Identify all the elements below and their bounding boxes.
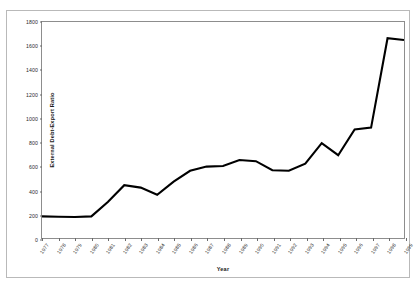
x-tick-mark-1994 (323, 238, 324, 241)
x-tick-label-1988: 1988 (221, 242, 232, 255)
x-tick-label-1997: 1997 (369, 242, 380, 255)
x-tick-label-1995: 1995 (336, 242, 347, 255)
x-tick-label-1998: 1998 (386, 242, 397, 255)
y-tick-label-200: 200 (29, 213, 38, 219)
x-tick-mark-1979 (75, 238, 76, 241)
x-tick-mark-1995 (340, 238, 341, 241)
x-tick-label-1984: 1984 (154, 242, 165, 255)
figure-top-caption (7, 1, 409, 7)
x-tick-mark-1998 (389, 238, 390, 241)
x-tick-mark-1993 (307, 238, 308, 241)
x-tick-label-1980: 1980 (88, 242, 99, 255)
x-tick-label-1993: 1993 (303, 242, 314, 255)
y-tick-label-0: 0 (35, 237, 38, 243)
y-tick-label-600: 600 (29, 164, 38, 170)
x-tick-mark-1988 (224, 238, 225, 241)
y-tick-label-400: 400 (29, 189, 38, 195)
x-tick-label-1994: 1994 (320, 242, 331, 255)
y-tick-label-1600: 1600 (26, 43, 38, 49)
x-tick-mark-1987 (207, 238, 208, 241)
x-tick-label-1987: 1987 (204, 242, 215, 255)
x-tick-mark-1990 (257, 238, 258, 241)
y-tick-label-800: 800 (29, 140, 38, 146)
x-tick-mark-1982 (125, 238, 126, 241)
x-tick-mark-1984 (158, 238, 159, 241)
x-tick-label-1990: 1990 (254, 242, 265, 255)
x-tick-mark-1999 (406, 238, 407, 241)
x-tick-label-1986: 1986 (187, 242, 198, 255)
figure-panel: External Debt-Export Ratio 0200400600800… (6, 10, 410, 278)
line-series-svg (42, 22, 404, 238)
x-tick-mark-1985 (174, 238, 175, 241)
x-tick-mark-1992 (290, 238, 291, 241)
x-tick-mark-1986 (191, 238, 192, 241)
plot-area: External Debt-Export Ratio 0200400600800… (41, 21, 405, 239)
x-tick-mark-1977 (42, 238, 43, 241)
x-tick-label-1991: 1991 (270, 242, 281, 255)
x-tick-label-1992: 1992 (287, 242, 298, 255)
x-axis-title: Year (42, 266, 404, 272)
x-tick-label-1989: 1989 (237, 242, 248, 255)
x-tick-label-1982: 1982 (121, 242, 132, 255)
x-tick-mark-1996 (356, 238, 357, 241)
data-line (42, 38, 404, 217)
x-tick-label-1978: 1978 (55, 242, 66, 255)
x-tick-mark-1997 (373, 238, 374, 241)
x-tick-label-1999: 1999 (403, 242, 414, 255)
y-tick-label-1000: 1000 (26, 116, 38, 122)
y-tick-label-1800: 1800 (26, 19, 38, 25)
x-tick-mark-1989 (241, 238, 242, 241)
x-tick-label-1996: 1996 (353, 242, 364, 255)
x-tick-mark-1983 (141, 238, 142, 241)
x-tick-mark-1991 (274, 238, 275, 241)
x-tick-label-1983: 1983 (138, 242, 149, 255)
y-tick-label-1400: 1400 (26, 67, 38, 73)
x-tick-label-1979: 1979 (72, 242, 83, 255)
x-tick-mark-1981 (108, 238, 109, 241)
x-tick-mark-1978 (59, 238, 60, 241)
y-tick-label-1200: 1200 (26, 92, 38, 98)
x-tick-label-1985: 1985 (171, 242, 182, 255)
x-tick-label-1981: 1981 (105, 242, 116, 255)
x-tick-mark-1980 (92, 238, 93, 241)
x-tick-label-1977: 1977 (39, 242, 50, 255)
